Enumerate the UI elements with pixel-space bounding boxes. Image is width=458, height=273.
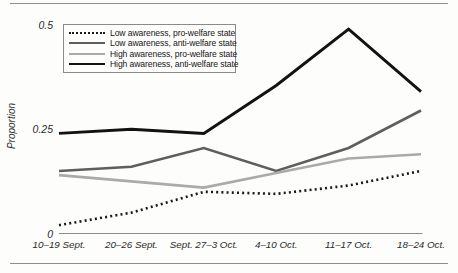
x-axis-label: 10–19 Sept.: [33, 239, 86, 250]
legend-item: High awareness, pro-welfare state: [69, 49, 230, 59]
legend-line-sample-black: [69, 63, 105, 65]
x-axis-label: 11–17 Oct.: [325, 239, 372, 250]
x-axis-label: 4–10 Oct.: [255, 239, 297, 250]
legend: Low awareness, pro-welfare state Low awa…: [63, 24, 236, 73]
y-tick-label: 0.25: [16, 123, 53, 135]
chart-figure: Proportion 00.250.5 10–19 Sept.20–26 Sep…: [0, 0, 458, 273]
legend-line-sample-dotted: [69, 32, 105, 34]
x-axis-label: 20–26 Sept.: [105, 239, 158, 250]
legend-line-sample-lightgray: [69, 53, 105, 55]
y-tick-label: 0: [16, 228, 53, 240]
legend-label: Low awareness, pro-welfare state: [110, 28, 235, 38]
y-tick-label: 0.5: [16, 19, 53, 31]
legend-item: Low awareness, pro-welfare state: [69, 28, 230, 38]
legend-item: High awareness, anti-welfare state: [69, 59, 230, 69]
legend-label: High awareness, anti-welfare state: [110, 59, 238, 69]
legend-item: Low awareness, anti-welfare state: [69, 38, 230, 48]
x-axis-label: Sept. 27–3 Oct.: [170, 239, 238, 250]
legend-line-sample-darkgray: [69, 42, 105, 44]
x-axis-label: 18–24 Oct.: [397, 239, 445, 250]
legend-label: Low awareness, anti-welfare state: [110, 38, 237, 48]
legend-label: High awareness, pro-welfare state: [110, 49, 237, 59]
